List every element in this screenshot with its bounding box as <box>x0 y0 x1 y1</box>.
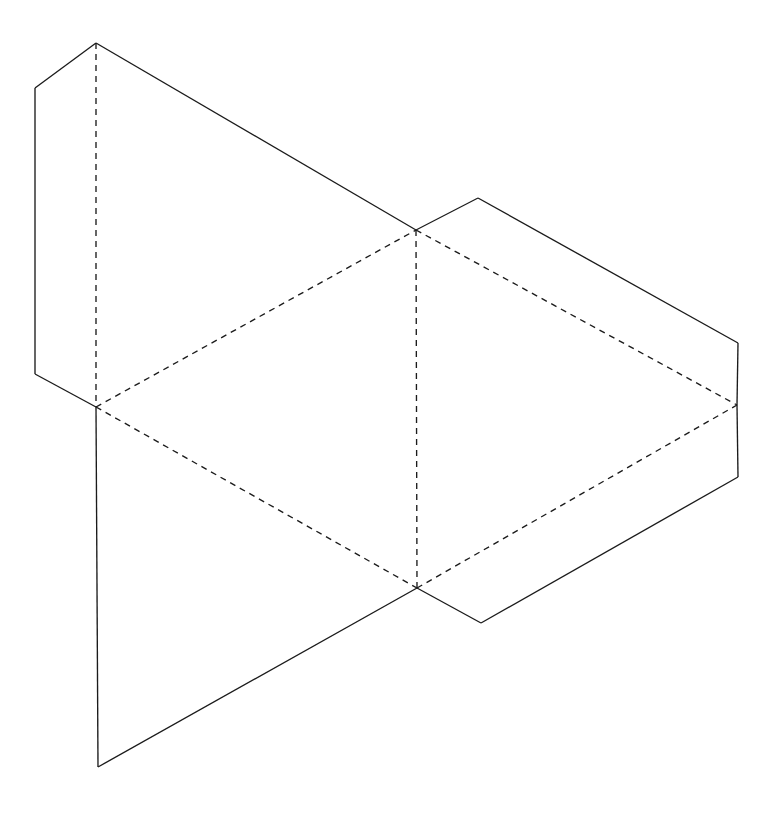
paper-background <box>0 0 770 814</box>
geometric-figure-svg <box>0 0 770 814</box>
diagram-canvas <box>0 0 770 814</box>
